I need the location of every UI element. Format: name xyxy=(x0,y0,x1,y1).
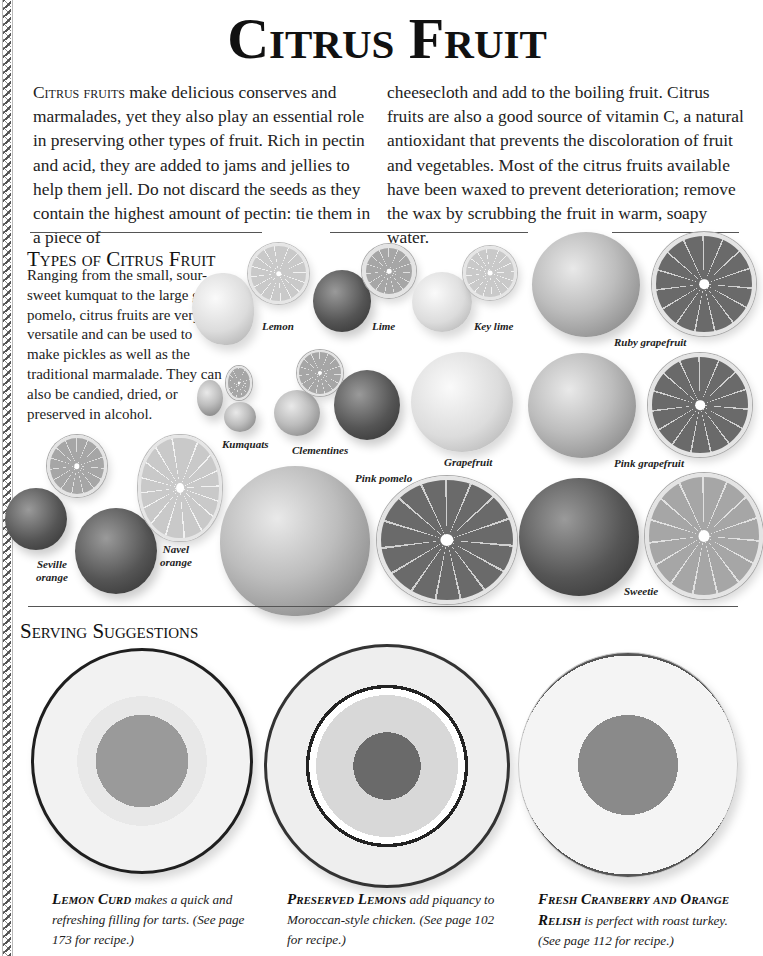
preserved-lemons-plate-image xyxy=(264,644,510,888)
pink-grapefruit-slice-image xyxy=(648,353,752,457)
label-key-lime: Key lime xyxy=(474,320,513,332)
ruby-grapefruit-slice-image xyxy=(652,232,756,336)
cranberry-relish-plate-image xyxy=(518,652,738,878)
label-ruby-grapefruit: Ruby grapefruit xyxy=(614,336,686,348)
label-pink-grapefruit: Pink grapefruit xyxy=(614,457,684,469)
label-grapefruit: Grapefruit xyxy=(444,456,492,468)
label-kumquats: Kumquats xyxy=(222,438,268,450)
kumquat-image-2 xyxy=(224,402,256,432)
lemon-curd-plate-image xyxy=(31,648,253,874)
clementine-leaf-image xyxy=(334,370,400,440)
serving-heading: Serving Suggestions xyxy=(20,621,198,642)
label-sweetie: Sweetie xyxy=(624,585,658,597)
intro-column-2: cheesecloth and add to the boiling fruit… xyxy=(387,80,747,249)
intro-column-1: Citrus fruits make delicious conserves a… xyxy=(33,80,373,249)
clementine-whole-image xyxy=(274,390,320,436)
intro-col1-text: make delicious conserves and marmalades,… xyxy=(33,82,370,247)
ruby-grapefruit-whole-image xyxy=(532,232,640,337)
navel-orange-whole-image xyxy=(75,508,157,594)
clementine-slice-image xyxy=(297,350,343,396)
sweetie-whole-image xyxy=(519,478,639,596)
pink-pomelo-whole-image xyxy=(220,466,370,616)
section-rule-right xyxy=(612,232,739,233)
navel-orange-cut-image xyxy=(138,435,222,541)
seville-orange-whole-image xyxy=(5,488,67,550)
lime-whole-image xyxy=(313,270,371,332)
intro-lead: Citrus fruits xyxy=(33,82,125,102)
pink-pomelo-cut-image xyxy=(377,476,517,604)
section-rule-left xyxy=(30,232,262,233)
lemon-whole-image xyxy=(192,273,254,345)
kumquat-image-1 xyxy=(197,380,223,416)
section-rule-mid xyxy=(330,232,528,233)
lime-slice-image xyxy=(362,244,416,298)
caption-lemon-curd: Lemon Curd makes a quick and refreshing … xyxy=(52,889,262,950)
caption-cranberry-relish: Fresh Cranberry and Orange Relish is per… xyxy=(538,889,748,951)
label-clementines: Clementines xyxy=(292,444,348,456)
caption-preserved-lemons: Preserved Lemons add piquancy to Morocca… xyxy=(287,889,497,950)
label-lime: Lime xyxy=(372,320,395,332)
lemon-slice-image xyxy=(248,243,309,304)
seville-orange-slice-image xyxy=(47,435,107,497)
decorative-rope-border xyxy=(0,0,14,956)
key-lime-slice-image xyxy=(463,246,517,300)
label-pink-pomelo: Pink pomelo xyxy=(355,472,412,484)
label-lemon: Lemon xyxy=(262,320,294,332)
section-rule-serving xyxy=(28,606,738,607)
label-seville-orange: Sevilleorange xyxy=(36,558,68,584)
sweetie-slice-image xyxy=(645,473,763,599)
label-navel-orange: Navelorange xyxy=(160,543,192,569)
grapefruit-whole-image xyxy=(411,352,513,452)
kumquat-slice-image xyxy=(226,366,252,400)
key-lime-whole-image xyxy=(412,272,472,332)
pink-grapefruit-whole-image xyxy=(528,353,636,458)
page-title: Citrus Fruit xyxy=(0,10,760,68)
